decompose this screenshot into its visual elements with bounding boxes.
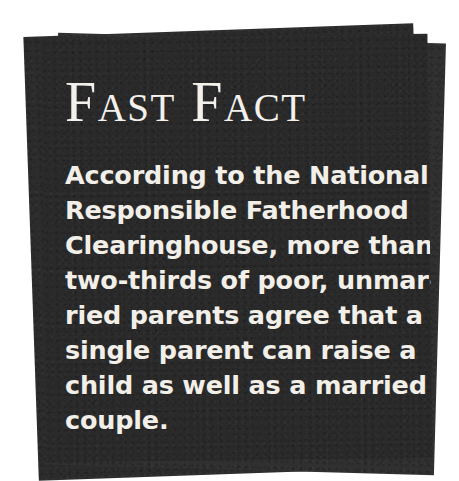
fast-fact-headline: Fast Fact <box>65 74 306 130</box>
body-line: Responsible Fatherhood <box>65 193 417 228</box>
card-content: Fast Fact According to the National Resp… <box>44 36 430 460</box>
body-line: couple. <box>65 403 417 438</box>
body-line: ried parents agree that a <box>65 298 417 333</box>
fast-fact-body: According to the National Responsible Fa… <box>65 158 417 438</box>
body-line: According to the National <box>65 158 417 193</box>
body-line: single parent can raise a <box>65 333 417 368</box>
card-front-layer: Fast Fact According to the National Resp… <box>41 34 432 463</box>
fast-fact-callout: Fast Fact According to the National Resp… <box>0 0 459 481</box>
body-line: two-thirds of poor, unmar- <box>65 263 417 298</box>
body-line: Clearinghouse, more than <box>65 228 417 263</box>
body-line: child as well as a married <box>65 368 417 403</box>
